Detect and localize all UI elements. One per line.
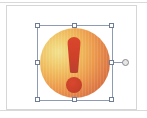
resize-handle-top-left[interactable] <box>35 23 40 28</box>
resize-handle-middle-left[interactable] <box>35 60 40 65</box>
resize-handle-top-middle[interactable] <box>72 23 77 28</box>
bottom-divider <box>0 110 147 111</box>
rotate-handle-icon[interactable] <box>122 59 129 66</box>
resize-handle-bottom-left[interactable] <box>35 97 40 102</box>
slide-page[interactable] <box>6 5 137 110</box>
selected-shape-group[interactable] <box>37 25 113 101</box>
exclamation-dot-icon <box>66 77 82 93</box>
resize-handle-bottom-middle[interactable] <box>72 97 77 102</box>
resize-handle-top-right[interactable] <box>109 23 114 28</box>
resize-handle-bottom-right[interactable] <box>109 97 114 102</box>
top-divider <box>0 2 147 3</box>
canvas-page <box>0 0 147 118</box>
